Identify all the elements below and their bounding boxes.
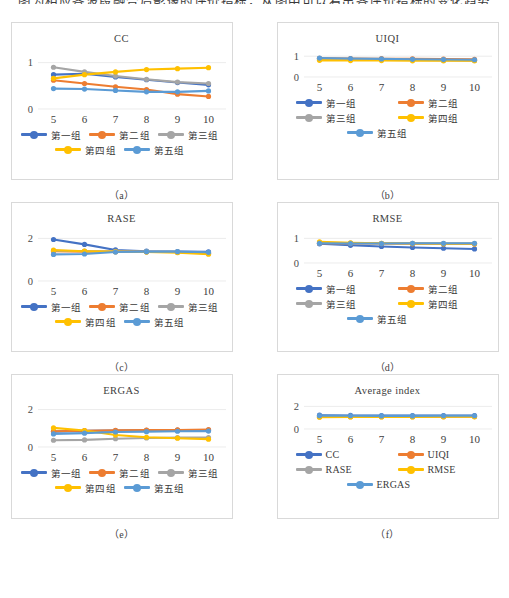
legend-item[interactable]: 第五组 — [122, 142, 190, 157]
legend-item[interactable]: 第五组 — [122, 480, 190, 495]
series-marker — [471, 413, 476, 418]
x-tick-label: 9 — [440, 433, 446, 445]
legend-item[interactable]: RASE — [286, 462, 388, 477]
legend-swatch-icon — [347, 128, 373, 137]
legend-item[interactable]: 第五组 — [122, 314, 190, 329]
series-marker — [440, 57, 445, 62]
plot-area-c: 205678910 — [16, 227, 230, 297]
series-marker — [174, 89, 179, 94]
legend-swatch-icon — [158, 130, 184, 139]
legend-swatch-icon — [398, 113, 424, 122]
legend-item[interactable]: 第四组 — [388, 296, 490, 311]
legend-item[interactable]: 第四组 — [53, 314, 121, 329]
x-tick-label: 8 — [409, 81, 415, 93]
legend-label: 第四组 — [85, 315, 116, 329]
chart-panel-c: RASE 205678910 第一组第二组第三组第四组第五组 — [11, 202, 233, 352]
legend-item[interactable]: 第三组 — [286, 110, 388, 125]
series-marker — [50, 237, 55, 242]
legend-item[interactable]: 第三组 — [156, 465, 224, 480]
chart-legend-d: 第一组第二组第三组第四组第五组 — [285, 281, 491, 326]
series-marker — [174, 436, 179, 441]
x-tick-label: 8 — [409, 267, 415, 279]
x-tick-label: 8 — [143, 451, 149, 463]
legend-item[interactable]: 第二组 — [388, 281, 490, 296]
series-marker — [112, 88, 117, 93]
series-marker — [205, 437, 210, 442]
legend-item[interactable]: 第二组 — [87, 299, 155, 314]
legend-item[interactable]: RMSE — [388, 462, 490, 477]
legend-label: 第四组 — [85, 481, 116, 495]
legend-item[interactable]: 第一组 — [19, 127, 87, 142]
x-tick-label: 10 — [203, 285, 215, 297]
y-tick-label: 0 — [27, 442, 32, 453]
legend-item[interactable]: 第一组 — [19, 299, 87, 314]
legend-item[interactable]: 第三组 — [156, 299, 224, 314]
legend-item[interactable]: 第四组 — [53, 142, 121, 157]
x-tick-label: 5 — [50, 113, 56, 125]
legend-item[interactable]: 第四组 — [388, 110, 490, 125]
legend-label: 第五组 — [377, 126, 408, 140]
figure-cell-a: CC 105678910 第一组第二组第三组第四组第五组 （a） — [0, 22, 243, 202]
legend-swatch-icon — [55, 145, 81, 154]
chart-title-a: CC — [16, 33, 228, 45]
legend-item[interactable]: 第四组 — [53, 480, 121, 495]
legend-label: 第五组 — [154, 481, 185, 495]
series-marker — [205, 250, 210, 255]
y-tick-label: 2 — [293, 401, 298, 412]
legend-swatch-icon — [21, 302, 47, 311]
series-marker — [50, 431, 55, 436]
x-tick-label: 5 — [316, 267, 322, 279]
legend-label: 第五组 — [154, 143, 185, 157]
caption-e: （e） — [109, 526, 134, 541]
legend-label: 第一组 — [51, 300, 82, 314]
legend-item[interactable]: 第三组 — [286, 296, 388, 311]
series-marker — [205, 81, 210, 86]
legend-item[interactable]: 第五组 — [337, 311, 439, 326]
x-tick-label: 6 — [347, 433, 353, 445]
series-marker — [205, 65, 210, 70]
legend-label: 第一组 — [51, 466, 82, 480]
y-tick-label: 0 — [293, 424, 298, 435]
figure-row-3: ERGAS 205678910 第一组第二组第三组第四组第五组 （e） Aver… — [0, 374, 509, 541]
legend-item[interactable]: CC — [286, 447, 388, 462]
series-marker — [347, 241, 352, 246]
figure-cell-d: RMSE 105678910 第一组第二组第三组第四组第五组 （d） — [266, 202, 509, 374]
series-marker — [205, 428, 210, 433]
series-marker — [440, 246, 445, 251]
legend-item[interactable]: UIQI — [388, 447, 490, 462]
series-marker — [205, 88, 210, 93]
series-marker — [378, 56, 383, 61]
x-tick-label: 6 — [347, 267, 353, 279]
legend-swatch-icon — [21, 468, 47, 477]
y-tick-label: 1 — [293, 233, 298, 244]
x-tick-label: 8 — [143, 113, 149, 125]
legend-item[interactable]: 第一组 — [286, 281, 388, 296]
legend-item[interactable]: ERGAS — [337, 477, 439, 492]
legend-label: 第一组 — [326, 96, 357, 110]
legend-item[interactable]: 第二组 — [388, 95, 490, 110]
series-marker — [50, 76, 55, 81]
series-marker — [143, 77, 148, 82]
x-tick-label: 5 — [316, 81, 322, 93]
legend-label: 第一组 — [51, 128, 82, 142]
chart-title-c: RASE — [16, 213, 228, 225]
chart-svg-f: 205678910 — [282, 399, 496, 445]
legend-item[interactable]: 第五组 — [337, 125, 439, 140]
legend-item[interactable]: 第二组 — [87, 127, 155, 142]
figure-grid: CC 105678910 第一组第二组第三组第四组第五组 （a） UIQI 10… — [0, 22, 509, 541]
legend-item[interactable]: 第三组 — [156, 127, 224, 142]
series-marker — [50, 65, 55, 70]
legend-item[interactable]: 第二组 — [87, 465, 155, 480]
series-marker — [81, 72, 86, 77]
series-marker — [471, 246, 476, 251]
legend-item[interactable]: 第一组 — [19, 465, 87, 480]
x-tick-label: 6 — [347, 81, 353, 93]
legend-item[interactable]: 第一组 — [286, 95, 388, 110]
chart-panel-e: ERGAS 205678910 第一组第二组第三组第四组第五组 — [11, 374, 233, 519]
x-tick-label: 7 — [378, 81, 384, 93]
legend-label: 第五组 — [377, 312, 408, 326]
legend-swatch-icon — [89, 468, 115, 477]
series-marker — [143, 249, 148, 254]
series-marker — [378, 241, 383, 246]
series-marker — [409, 57, 414, 62]
